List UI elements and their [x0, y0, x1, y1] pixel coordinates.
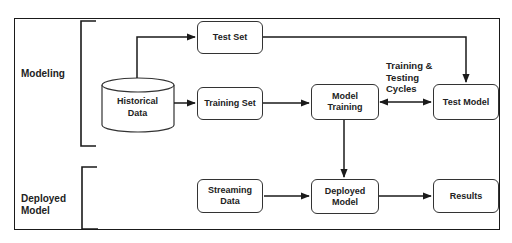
node-label: Test Model — [443, 97, 489, 108]
node-label: Data — [101, 107, 174, 119]
node-label: Model — [332, 197, 358, 208]
deployed-bracket — [82, 167, 98, 229]
section-label-modeling: Modeling — [21, 68, 65, 80]
node-label: Deployed — [325, 186, 366, 197]
annotation-line: Cycles — [386, 83, 432, 95]
node-label: Results — [450, 191, 483, 202]
node-label: Training Set — [204, 98, 256, 109]
node-label: Test Set — [213, 32, 247, 43]
node-label: Streaming — [208, 185, 252, 196]
node-training-set[interactable]: Training Set — [197, 87, 263, 120]
node-deployed-model[interactable]: Deployed Model — [311, 179, 379, 214]
annotation-line: Training & — [386, 60, 432, 72]
section-label-deployed-model: Deployed Model — [21, 193, 66, 217]
section-label-line: Deployed — [21, 193, 66, 205]
section-label-line: Model — [21, 205, 66, 217]
node-test-set[interactable]: Test Set — [197, 21, 263, 54]
node-label: Data — [220, 196, 240, 207]
node-historical-data[interactable]: Historical Data — [101, 95, 174, 119]
node-label: Training — [327, 102, 362, 113]
node-test-model[interactable]: Test Model — [433, 84, 499, 120]
cycle-annotation: Training & Testing Cycles — [386, 60, 432, 95]
node-model-training[interactable]: Model Training — [311, 84, 379, 120]
node-streaming-data[interactable]: Streaming Data — [197, 179, 263, 213]
node-results[interactable]: Results — [433, 179, 499, 213]
annotation-line: Testing — [386, 72, 432, 84]
modeling-bracket — [81, 21, 96, 146]
node-label: Model — [332, 91, 358, 102]
node-label: Historical — [101, 95, 174, 107]
